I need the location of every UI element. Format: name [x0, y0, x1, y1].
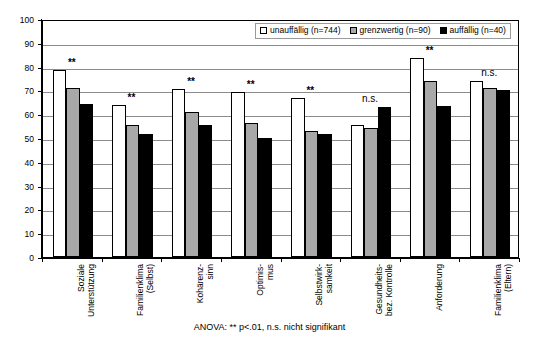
- bar-5-0: [351, 125, 365, 257]
- bar-1-1: [126, 125, 140, 257]
- y-tick-label-40: 40: [8, 159, 34, 168]
- y-tick-label-50: 50: [8, 135, 34, 144]
- legend-label-unauffaellig: unauffällig (n=744): [270, 25, 341, 36]
- legend-swatch-unauffaellig: [260, 27, 267, 34]
- bar-2-1: [185, 112, 199, 257]
- x-tick-0: [42, 258, 43, 262]
- legend-item-auffaellig: auffällig (n=40): [440, 25, 506, 36]
- bar-5-1: [364, 128, 378, 257]
- significance-marker-4: **: [281, 85, 341, 96]
- bar-6-1: [424, 81, 438, 257]
- y-tick-mark-10: [38, 234, 42, 235]
- x-tick-7: [459, 258, 460, 262]
- y-tick-label-0: 0: [8, 254, 34, 263]
- y-tick-mark-70: [38, 91, 42, 92]
- bar-0-0: [53, 70, 67, 257]
- y-tick-mark-40: [38, 163, 42, 164]
- legend-label-grenzwertig: grenzwertig (n=90): [360, 25, 431, 36]
- bar-chart-figure: 0102030405060708090100 Soziale Unterstüt…: [0, 0, 539, 346]
- y-tick-label-20: 20: [8, 206, 34, 215]
- bar-2-2: [199, 125, 213, 257]
- y-tick-mark-50: [38, 139, 42, 140]
- x-tick-5: [340, 258, 341, 262]
- significance-marker-1: **: [102, 92, 162, 103]
- x-tick-2: [161, 258, 162, 262]
- x-tick-1: [102, 258, 103, 262]
- bar-6-2: [437, 106, 451, 257]
- legend-item-grenzwertig: grenzwertig (n=90): [350, 25, 431, 36]
- significance-marker-3: **: [221, 79, 281, 90]
- bar-5-2: [378, 107, 392, 257]
- y-tick-label-70: 70: [8, 87, 34, 96]
- bar-0-2: [80, 104, 94, 258]
- y-tick-mark-60: [38, 115, 42, 116]
- bar-7-2: [497, 90, 511, 257]
- bar-1-2: [139, 134, 153, 257]
- bar-4-0: [291, 98, 305, 257]
- significance-marker-7: n.s.: [459, 67, 519, 78]
- y-tick-mark-30: [38, 187, 42, 188]
- legend-label-auffaellig: auffällig (n=40): [450, 25, 506, 36]
- bar-3-0: [231, 92, 245, 257]
- chart-footnote: ANOVA: ** p<.01, n.s. nicht signifikant: [0, 322, 539, 332]
- gridline-80: [43, 69, 518, 70]
- y-tick-label-100: 100: [8, 16, 34, 25]
- significance-marker-0: **: [42, 57, 102, 68]
- bar-6-0: [410, 58, 424, 257]
- y-tick-mark-20: [38, 210, 42, 211]
- bar-1-0: [112, 105, 126, 257]
- x-tick-4: [281, 258, 282, 262]
- bar-2-0: [172, 89, 186, 257]
- x-tick-6: [400, 258, 401, 262]
- legend-swatch-grenzwertig: [350, 27, 357, 34]
- y-tick-label-30: 30: [8, 183, 34, 192]
- x-tick-3: [221, 258, 222, 262]
- bar-3-1: [245, 123, 259, 257]
- chart-legend: unauffällig (n=744) grenzwertig (n=90) a…: [255, 23, 511, 39]
- bar-4-2: [318, 134, 332, 257]
- bar-3-2: [258, 138, 272, 257]
- bar-4-1: [305, 131, 319, 257]
- x-tick-end: [519, 258, 520, 262]
- y-tick-label-60: 60: [8, 111, 34, 120]
- legend-item-unauffaellig: unauffällig (n=744): [260, 25, 341, 36]
- y-tick-label-10: 10: [8, 230, 34, 239]
- bar-7-0: [470, 81, 484, 257]
- significance-marker-5: n.s.: [340, 93, 400, 104]
- bar-0-1: [66, 88, 80, 257]
- significance-marker-2: **: [161, 76, 221, 87]
- legend-swatch-auffaellig: [440, 27, 447, 34]
- bar-7-1: [483, 88, 497, 257]
- y-tick-mark-100: [38, 20, 42, 21]
- y-tick-label-90: 90: [8, 40, 34, 49]
- y-tick-mark-90: [38, 44, 42, 45]
- y-tick-label-80: 80: [8, 64, 34, 73]
- significance-marker-6: **: [400, 45, 460, 56]
